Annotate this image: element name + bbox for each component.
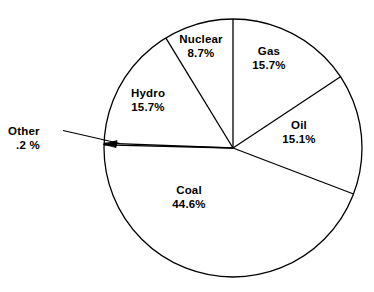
slice-label-nuclear-name: Nuclear — [163, 32, 239, 46]
slice-label-hydro-value: 15.7% — [112, 100, 184, 114]
slice-label-other-value: .2 % — [8, 138, 64, 152]
slice-label-coal: Coal 44.6% — [152, 183, 226, 211]
slice-label-gas: Gas 15.7% — [236, 44, 302, 72]
slice-label-coal-value: 44.6% — [152, 197, 226, 211]
slice-label-oil-value: 15.1% — [268, 132, 330, 146]
slice-label-oil: Oil 15.1% — [268, 118, 330, 146]
slice-label-hydro: Hydro 15.7% — [112, 86, 184, 114]
slice-label-coal-name: Coal — [152, 183, 226, 197]
slice-label-hydro-name: Hydro — [112, 86, 184, 100]
slice-label-other-name: Other — [8, 124, 64, 138]
slice-label-gas-value: 15.7% — [236, 58, 302, 72]
slice-label-other: Other .2 % — [8, 124, 64, 152]
pie-chart: Gas 15.7% Oil 15.1% Coal 44.6% Hydro 15.… — [0, 0, 374, 292]
slice-label-gas-name: Gas — [236, 44, 302, 58]
slice-label-nuclear: Nuclear 8.7% — [163, 32, 239, 60]
slice-label-oil-name: Oil — [268, 118, 330, 132]
slice-label-nuclear-value: 8.7% — [163, 46, 239, 60]
